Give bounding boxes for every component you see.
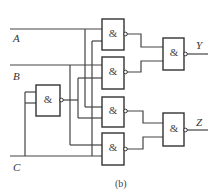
- gate-symbol-2: &: [102, 65, 124, 77]
- input-label-b: B: [13, 70, 20, 82]
- output-label-z: Z: [196, 116, 202, 128]
- inverter-output-wire: [63, 78, 102, 118]
- figure-caption: (b): [115, 178, 127, 189]
- input-label-a: A: [13, 32, 20, 44]
- gate-symbol-inverter: &: [37, 93, 59, 105]
- gate-symbol-y: &: [163, 46, 185, 58]
- gate-symbol-3: &: [102, 104, 124, 116]
- gate-symbol-z: &: [163, 122, 185, 134]
- gate-symbol-1: &: [102, 27, 124, 39]
- output-label-y: Y: [196, 39, 202, 51]
- gate-symbol-4: &: [102, 141, 124, 153]
- input-label-c: C: [13, 161, 20, 173]
